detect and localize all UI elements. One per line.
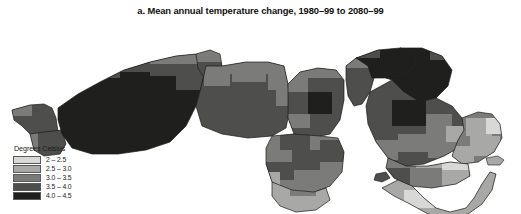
region-egypt xyxy=(282,62,352,144)
region-djibouti xyxy=(374,172,390,182)
legend-item: 2.5 – 3.0 xyxy=(13,164,109,173)
figure-panel: a. Mean annual temperature change, 1980–… xyxy=(0,0,521,214)
legend-label-3_5-4: 3.5 – 4.0 xyxy=(46,183,72,190)
legend-label-2-2_5: 2 – 2.5 xyxy=(46,156,66,163)
legend-swatch-4-4_5 xyxy=(13,192,41,200)
legend-label-4-4_5: 4.0 – 4.5 xyxy=(46,192,72,199)
legend-title: Degrees Celsius xyxy=(14,144,109,153)
legend-item: 3.5 – 4.0 xyxy=(13,182,109,191)
legend-swatch-3_5-4 xyxy=(13,183,41,191)
legend-swatch-2-2_5 xyxy=(13,156,41,164)
figure-title: a. Mean annual temperature change, 1980–… xyxy=(0,5,521,16)
region-libya xyxy=(190,56,302,146)
legend-label-2_5-3: 2.5 – 3.0 xyxy=(46,165,72,172)
legend-item: 3.0 – 3.5 xyxy=(13,173,109,182)
legend-label-3-3_5: 3.0 – 3.5 xyxy=(46,174,72,181)
legend-item: 2 – 2.5 xyxy=(13,155,109,164)
legend-swatch-2_5-3 xyxy=(13,165,41,173)
legend-swatch-3-3_5 xyxy=(13,174,41,182)
legend-item: 4.0 – 4.5 xyxy=(13,191,109,200)
map-legend: Degrees Celsius 2 – 2.5 2.5 – 3.0 3.0 – … xyxy=(13,144,109,200)
